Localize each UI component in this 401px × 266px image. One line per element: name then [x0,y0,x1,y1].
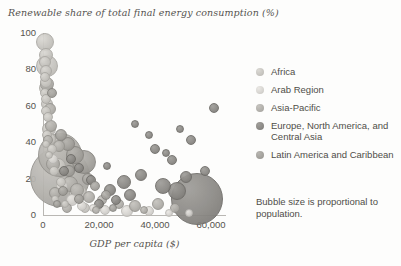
y-tick-40: 40 [2,136,36,147]
bubble [53,200,61,208]
legend-label: Africa [271,66,295,77]
bubble [155,178,171,194]
bubble [55,129,67,141]
legend-item-latin-america-and-caribbean[interactable]: Latin America and Caribbean [256,149,398,160]
bubble [103,162,111,170]
legend-label: Arab Region [271,84,324,95]
bubble [200,166,210,176]
legend-swatch-icon [256,151,264,159]
bubble [186,135,196,145]
x-tick-0: 0 [40,219,45,230]
bubble [74,163,84,173]
bubble [135,169,147,181]
bubble [45,151,53,159]
legend-label: Asia-Pacific [271,102,321,113]
bubble [42,140,50,148]
bubble-chart: Renewable share of total final energy co… [0,0,401,266]
bubble [40,72,50,82]
legend-item-arab-region[interactable]: Arab Region [256,84,398,95]
legend-label: Europe, North America, and Central Asia [271,120,398,142]
y-tick-60: 60 [2,100,36,111]
legend-item-asia-pacific[interactable]: Asia-Pacific [256,102,398,113]
bubble [117,175,131,189]
bubble [131,120,139,128]
plot-area [43,33,225,215]
bubble [61,200,69,208]
bubble [162,149,170,157]
legend-swatch-icon [256,104,264,112]
bubble [59,166,69,176]
bubble [49,166,59,176]
x-tick-40000: 40,000 [140,219,169,230]
legend-swatch-icon [256,86,264,94]
bubble [74,194,84,204]
y-tick-100: 100 [2,27,36,38]
bubble [92,206,100,214]
legend-item-europe-north-america-and-central-asia[interactable]: Europe, North America, and Central Asia [256,120,398,142]
bubble [140,206,148,214]
bubble [90,181,100,191]
bubble [43,112,53,122]
bubble [185,209,193,217]
bubble [150,144,160,154]
bubble [145,131,153,139]
bubble [47,88,57,98]
bubble [58,186,68,196]
chart-title: Renewable share of total final energy co… [8,7,279,18]
legend-label: Latin America and Caribbean [271,149,394,160]
y-tick-80: 80 [2,63,36,74]
legend-swatch-icon [256,68,264,76]
bubble-size-note: Bubble size is proportional to populatio… [256,196,398,219]
bubble [165,209,173,217]
bubble [124,189,136,201]
bubble [209,103,219,113]
bubble [101,190,111,200]
legend: AfricaArab RegionAsia-PacificEurope, Nor… [256,66,398,167]
bubble [180,171,192,183]
bubble [176,125,184,133]
bubble [167,155,177,165]
legend-swatch-icon [256,122,264,130]
bubble [109,204,117,212]
legend-item-africa[interactable]: Africa [256,66,398,77]
x-axis-title: GDP per capita ($) [43,238,226,249]
x-tick-20000: 20,000 [84,219,113,230]
bubble [66,154,76,164]
